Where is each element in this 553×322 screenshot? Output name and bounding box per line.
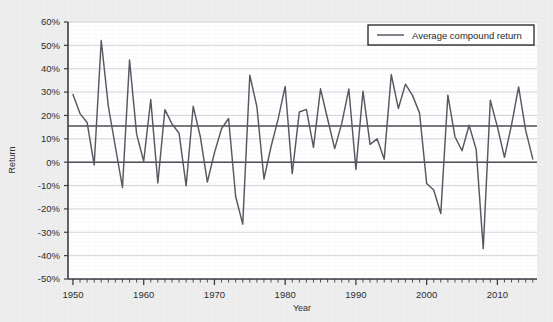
legend-label: Average compound return <box>412 30 522 41</box>
y-tick-label: 60% <box>41 16 61 27</box>
return-chart: 60%50%40%30%20%10%0%-10%-20%-30%-40%-50%… <box>0 0 553 322</box>
y-tick-label: 20% <box>41 110 61 121</box>
x-minor-ticks <box>73 279 533 285</box>
plot-background <box>68 22 537 279</box>
y-axis-title: Return <box>7 146 17 173</box>
y-tick-label: 0% <box>46 157 60 168</box>
x-tick-label: 1960 <box>133 289 154 300</box>
x-tick-label: 1980 <box>275 289 296 300</box>
y-tick-label: -10% <box>38 180 61 191</box>
y-tick-label: -30% <box>38 227 61 238</box>
x-axis-title: Year <box>293 303 311 313</box>
x-tick-labels: 1950196019701980199020002010 <box>62 289 508 300</box>
y-tick-label: 30% <box>41 86 61 97</box>
y-tick-label: 50% <box>41 40 61 51</box>
y-tick-label: -40% <box>38 250 61 261</box>
y-tick-label: -20% <box>38 203 61 214</box>
x-tick-label: 1970 <box>204 289 225 300</box>
legend[interactable]: Average compound return <box>368 25 534 45</box>
x-tick-label: 1950 <box>62 289 83 300</box>
x-tick-label: 2000 <box>416 289 437 300</box>
x-tick-label: 2010 <box>487 289 508 300</box>
x-tick-label: 1990 <box>345 289 366 300</box>
chart-canvas: 60%50%40%30%20%10%0%-10%-20%-30%-40%-50%… <box>0 0 553 322</box>
y-tick-label: -50% <box>38 273 61 284</box>
y-tick-label: 40% <box>41 63 61 74</box>
y-tick-label: 10% <box>41 133 61 144</box>
y-tick-labels: 60%50%40%30%20%10%0%-10%-20%-30%-40%-50% <box>38 16 61 284</box>
